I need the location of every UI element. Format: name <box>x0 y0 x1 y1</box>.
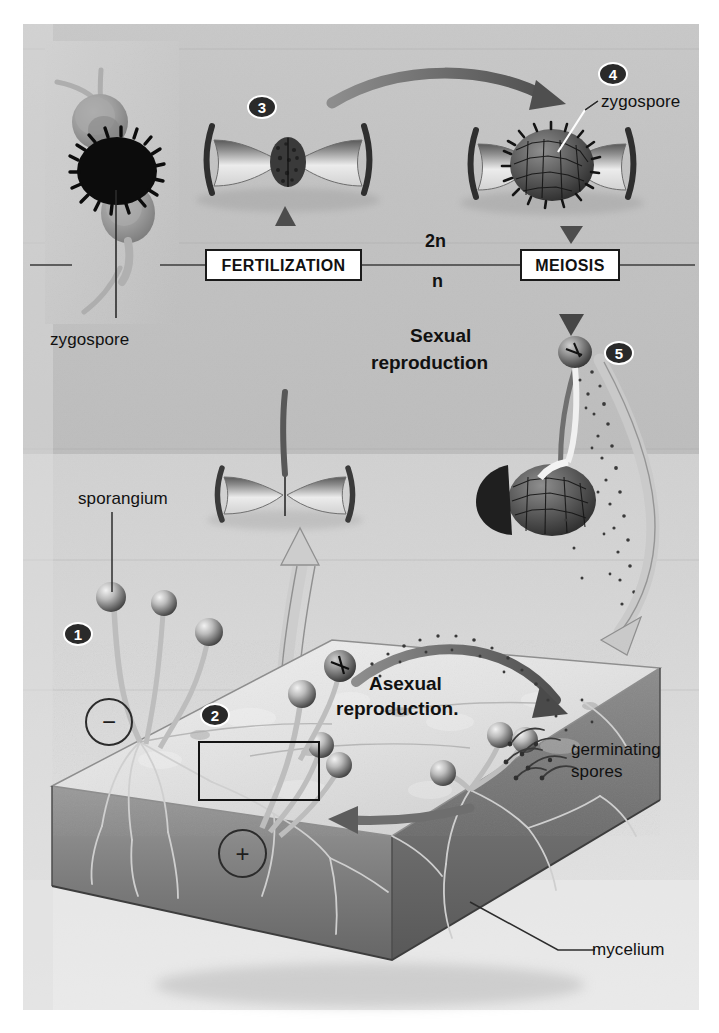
sporangium-label: sporangium <box>78 489 168 509</box>
step-badge-3: 3 <box>247 95 277 119</box>
detail-zoom-box <box>198 741 320 801</box>
ploidy-diploid-label: 2n <box>425 231 446 252</box>
step-badge-1: 1 <box>63 622 93 646</box>
asexual-reproduction-heading-line2: reproduction. <box>336 698 458 720</box>
asexual-reproduction-heading-line1: Asexual <box>369 673 442 695</box>
zygospore-label: zygospore <box>601 92 680 112</box>
stage-box-fertilization: FERTILIZATION <box>205 249 362 281</box>
step-badge-2: 2 <box>200 703 230 727</box>
zygospore-micrograph <box>45 41 179 324</box>
minus-mating-type-marker: − <box>85 698 133 746</box>
stage-box-meiosis: MEIOSIS <box>520 249 620 281</box>
inset-zygospore-label: zygospore <box>50 330 129 350</box>
step-badge-4: 4 <box>598 62 628 86</box>
mycelium-label: mycelium <box>592 940 665 960</box>
figure-canvas: FERTILIZATION MEIOSIS 2n n Sexual reprod… <box>0 0 719 1033</box>
sexual-reproduction-heading-line2: reproduction <box>371 352 488 374</box>
life-cycle-artwork <box>0 0 719 1033</box>
germinating-spores-label-line2: spores <box>571 762 623 782</box>
ploidy-haploid-label: n <box>432 271 443 292</box>
step-badge-5: 5 <box>604 341 634 365</box>
germinating-spores-label-line1: germinating <box>571 740 661 760</box>
sexual-reproduction-heading-line1: Sexual <box>410 325 471 347</box>
plus-mating-type-marker: + <box>218 829 267 878</box>
